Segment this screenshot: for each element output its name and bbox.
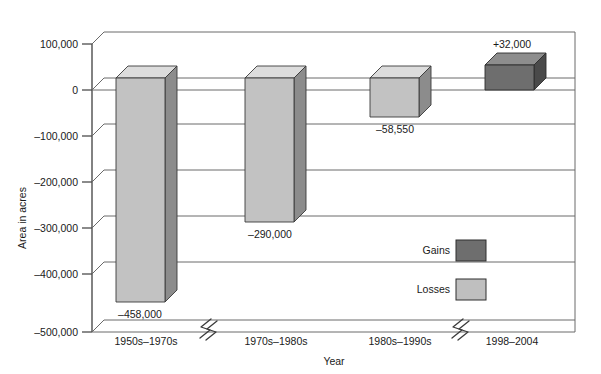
bar-1998-2004[interactable] — [485, 53, 546, 90]
y-tick-label: 0 — [72, 84, 78, 96]
legend-swatch-gains — [456, 240, 486, 261]
legend-label-gains: Gains — [423, 244, 450, 256]
y-axis-title: Area in acres — [16, 187, 28, 249]
y-tick-label: –400,000 — [34, 268, 78, 280]
y-tick-label: 100,000 — [40, 38, 78, 50]
y-tick-label: –500,000 — [34, 326, 78, 338]
legend-label-losses: Losses — [417, 283, 450, 295]
bar-1970s-1980s[interactable] — [245, 66, 306, 222]
y-tick-label: –300,000 — [34, 222, 78, 234]
bar-chart-figure: 100,000 0 –100,000 –200,000 –300,000 –40… — [0, 0, 601, 374]
x-tick-labels: 1950s–1970s 1970s–1980s 1980s–1990s 1998… — [114, 335, 538, 347]
legend-swatch-losses — [456, 279, 486, 300]
x-tick-label: 1970s–1980s — [244, 335, 307, 347]
y-tick-marks — [82, 44, 92, 332]
data-label-1970s-1980s: –290,000 — [248, 228, 292, 240]
data-label-1950s-1970s: –458,000 — [118, 308, 162, 320]
x-tick-label: 1980s–1990s — [368, 335, 431, 347]
y-tick-label: –100,000 — [34, 130, 78, 142]
y-tick-label: –200,000 — [34, 176, 78, 188]
bar-1950s-1970s[interactable] — [116, 66, 177, 302]
chart-canvas: 100,000 0 –100,000 –200,000 –300,000 –40… — [0, 0, 601, 374]
y-tick-labels: 100,000 0 –100,000 –200,000 –300,000 –40… — [34, 38, 78, 338]
bar-1980s-1990s[interactable] — [370, 66, 431, 117]
x-tick-label: 1998–2004 — [486, 335, 539, 347]
data-label-1998-2004: +32,000 — [493, 38, 531, 50]
x-tick-label: 1950s–1970s — [114, 335, 177, 347]
x-axis-title: Year — [323, 355, 345, 367]
data-label-1980s-1990s: –58,550 — [376, 123, 414, 135]
